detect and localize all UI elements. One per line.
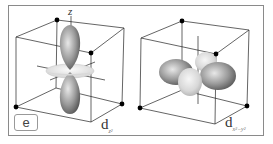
z-axis-label: z	[68, 5, 72, 17]
dx2y2-panel	[138, 19, 250, 124]
front-lobe	[178, 68, 202, 96]
dz2-panel	[14, 16, 125, 122]
panel-label-badge: e	[14, 114, 38, 131]
upper-lobe	[60, 25, 80, 70]
dx2y2-label-sub: x²−y²	[233, 126, 246, 132]
dx2y2-label: dx²−y²	[225, 114, 245, 132]
dz2-label-main: d	[101, 116, 109, 132]
dz2-label-sub: z²	[109, 128, 113, 134]
lower-lobe	[60, 72, 80, 114]
right-lobe	[200, 62, 236, 90]
dz2-label: dz²	[101, 116, 113, 134]
dx2y2-label-main: d	[225, 114, 233, 130]
